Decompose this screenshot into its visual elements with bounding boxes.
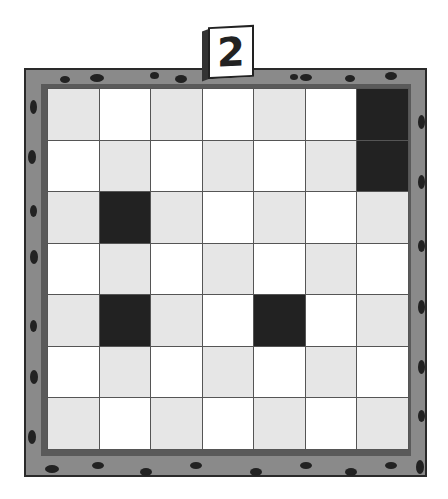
grid-cell-6-6[interactable] (357, 398, 408, 449)
footprint-icon (30, 205, 37, 217)
grid-cell-3-0[interactable] (48, 244, 99, 295)
grid-cell-2-0[interactable] (48, 192, 99, 243)
footprint-icon (418, 240, 425, 252)
footprint-icon (140, 468, 152, 476)
footprint-icon (90, 74, 104, 82)
grid-cell-0-5[interactable] (306, 89, 357, 140)
grid-cell-3-1[interactable] (100, 244, 151, 295)
grid-cell-1-6[interactable] (357, 141, 408, 192)
grid-cell-0-3[interactable] (203, 89, 254, 140)
footprint-icon (30, 100, 37, 114)
grid-cell-5-0[interactable] (48, 347, 99, 398)
footprint-icon (345, 468, 357, 476)
footprint-icon (30, 370, 38, 384)
level-card: 2 (208, 25, 254, 79)
footprint-icon (28, 430, 36, 444)
grid-cell-0-4[interactable] (254, 89, 305, 140)
grid-cell-4-3[interactable] (203, 295, 254, 346)
grid-cell-6-0[interactable] (48, 398, 99, 449)
grid-cell-0-6[interactable] (357, 89, 408, 140)
footprint-icon (290, 74, 298, 80)
grid-cell-6-3[interactable] (203, 398, 254, 449)
grid-cell-5-4[interactable] (254, 347, 305, 398)
grid-cell-2-1[interactable] (100, 192, 151, 243)
grid-cell-1-3[interactable] (203, 141, 254, 192)
footprint-icon (385, 72, 397, 80)
footprint-icon (250, 468, 262, 476)
footprint-icon (418, 360, 425, 374)
grid-cell-6-2[interactable] (151, 398, 202, 449)
footprint-icon (418, 175, 425, 189)
grid-cell-1-5[interactable] (306, 141, 357, 192)
grid-cell-6-5[interactable] (306, 398, 357, 449)
grid-cell-3-4[interactable] (254, 244, 305, 295)
grid-cell-0-2[interactable] (151, 89, 202, 140)
grid-cell-4-2[interactable] (151, 295, 202, 346)
footprint-icon (385, 462, 397, 469)
footprint-icon (300, 74, 312, 81)
grid-cell-5-6[interactable] (357, 347, 408, 398)
footprint-icon (150, 72, 159, 79)
grid-cell-4-4[interactable] (254, 295, 305, 346)
footprint-icon (60, 76, 70, 83)
grid-cell-2-3[interactable] (203, 192, 254, 243)
grid-cell-2-5[interactable] (306, 192, 357, 243)
grid-cell-5-5[interactable] (306, 347, 357, 398)
footprint-icon (175, 75, 187, 83)
grid-cell-6-4[interactable] (254, 398, 305, 449)
grid-cell-0-1[interactable] (100, 89, 151, 140)
footprint-icon (345, 75, 355, 82)
grid-cell-6-1[interactable] (100, 398, 151, 449)
grid-cell-5-3[interactable] (203, 347, 254, 398)
grid-cell-3-5[interactable] (306, 244, 357, 295)
footprint-icon (45, 465, 59, 473)
grid-cell-5-1[interactable] (100, 347, 151, 398)
grid-cell-1-0[interactable] (48, 141, 99, 192)
grid-cell-0-0[interactable] (48, 89, 99, 140)
grid-cell-4-0[interactable] (48, 295, 99, 346)
footprint-icon (92, 462, 104, 469)
footprint-icon (28, 150, 36, 164)
grid-cell-4-1[interactable] (100, 295, 151, 346)
footprint-icon (30, 320, 37, 332)
grid-cell-2-2[interactable] (151, 192, 202, 243)
grid-cell-1-4[interactable] (254, 141, 305, 192)
footprint-icon (418, 115, 425, 129)
game-grid (47, 88, 409, 450)
grid-cell-4-5[interactable] (306, 295, 357, 346)
grid-cell-3-3[interactable] (203, 244, 254, 295)
footprint-icon (418, 300, 425, 314)
grid-cell-3-6[interactable] (357, 244, 408, 295)
footprint-icon (416, 460, 424, 474)
level-number: 2 (217, 31, 245, 72)
footprint-icon (30, 250, 38, 264)
grid-cell-2-6[interactable] (357, 192, 408, 243)
grid-cell-1-1[interactable] (100, 141, 151, 192)
grid-cell-1-2[interactable] (151, 141, 202, 192)
grid-cell-3-2[interactable] (151, 244, 202, 295)
footprint-icon (300, 462, 312, 469)
grid-cell-2-4[interactable] (254, 192, 305, 243)
footprint-icon (190, 462, 202, 469)
grid-cell-4-6[interactable] (357, 295, 408, 346)
footprint-icon (418, 410, 425, 422)
grid-cell-5-2[interactable] (151, 347, 202, 398)
